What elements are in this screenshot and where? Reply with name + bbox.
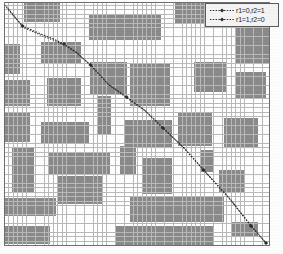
occupancy-grid-plot <box>4 2 270 246</box>
legend: r1=0,r2=1 r1=1,r2=0 <box>205 3 279 27</box>
legend-line-sample-r1-0-r2-1 <box>209 6 235 15</box>
path-polyline-r1-0-r2-1 <box>5 5 267 243</box>
legend-line-sample-r1-1-r2-0 <box>209 15 235 24</box>
robot-paths-layer <box>4 2 270 246</box>
legend-item-0: r1=0,r2=1 <box>209 6 275 15</box>
legend-label-1: r1=1,r2=0 <box>236 15 265 24</box>
legend-item-1: r1=1,r2=0 <box>209 15 275 24</box>
legend-label-0: r1=0,r2=1 <box>236 6 265 15</box>
waypoint-marker <box>62 42 66 46</box>
path-polyline-r1-1-r2-0 <box>7 7 268 245</box>
figure-root: r1=0,r2=1 r1=1,r2=0 <box>0 0 283 254</box>
